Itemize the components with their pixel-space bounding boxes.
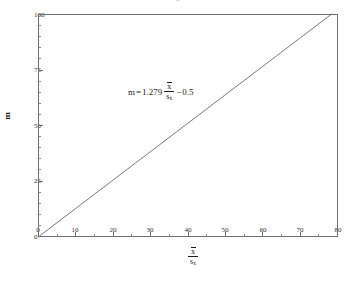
y-tick-minor-20 — [38, 192, 41, 193]
y-tick-minor-40 — [38, 147, 41, 148]
x-tick-major-50 — [225, 232, 226, 237]
x-tick-major-20 — [113, 232, 114, 237]
x-axis-label-fraction: x sx — [188, 247, 198, 267]
x-tick-minor-65 — [281, 234, 282, 237]
y-tick-minor-70 — [38, 81, 41, 82]
x-axis-label-denominator: sx — [188, 257, 198, 267]
y-tick-minor-65 — [38, 92, 41, 93]
y-tick-minor-15 — [38, 203, 41, 204]
y-tick-label-0: 0 — [34, 233, 38, 241]
title-remnant-subscript: x — [176, 0, 179, 1]
x-tick-minor-15 — [94, 234, 95, 237]
y-tick-minor-55 — [38, 114, 41, 115]
x-tick-major-30 — [150, 232, 151, 237]
x-tick-major-40 — [188, 232, 189, 237]
data-line-svg — [38, 14, 338, 237]
x-tick-minor-75 — [318, 234, 319, 237]
y-tick-minor-45 — [38, 136, 41, 137]
y-tick-minor-95 — [38, 25, 41, 26]
x-tick-major-70 — [300, 232, 301, 237]
y-tick-minor-5 — [38, 225, 41, 226]
x-axis-label: x sx — [176, 247, 210, 267]
x-axis-label-numerator: x — [188, 247, 198, 257]
y-tick-minor-90 — [38, 36, 41, 37]
plot-area — [38, 14, 338, 237]
x-tick-minor-25 — [131, 234, 132, 237]
y-tick-minor-60 — [38, 103, 41, 104]
y-tick-major-0 — [38, 236, 43, 237]
y-tick-minor-85 — [38, 47, 41, 48]
chart-figure: sx m 0 25 50 75 100 0 10 20 30 40 50 60 … — [0, 0, 352, 286]
x-tick-minor-5 — [57, 234, 58, 237]
y-tick-minor-35 — [38, 158, 41, 159]
y-tick-minor-30 — [38, 169, 41, 170]
x-tick-minor-45 — [206, 234, 207, 237]
x-tick-major-80 — [337, 232, 338, 237]
x-tick-major-60 — [262, 232, 263, 237]
y-tick-minor-10 — [38, 214, 41, 215]
x-tick-major-10 — [75, 232, 76, 237]
cropped-title-remnant: sx — [0, 0, 352, 1]
x-tick-minor-55 — [244, 234, 245, 237]
y-tick-major-25 — [38, 181, 43, 182]
x-tick-minor-35 — [169, 234, 170, 237]
data-series-line — [39, 14, 331, 236]
y-tick-major-50 — [38, 125, 43, 126]
y-axis-label: m — [2, 112, 12, 120]
y-tick-major-75 — [38, 70, 43, 71]
y-tick-minor-80 — [38, 58, 41, 59]
y-tick-major-100 — [38, 14, 43, 15]
